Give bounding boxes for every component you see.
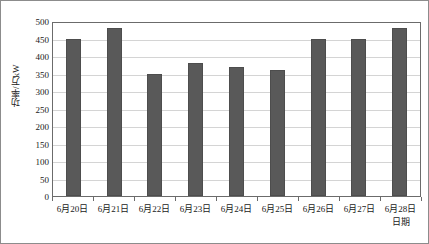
y-axis-tick-label: 450 xyxy=(21,35,49,44)
bar-slot xyxy=(94,23,135,196)
x-axis-tick-label: 6月23日 xyxy=(175,202,216,218)
y-axis-tick-label: 250 xyxy=(21,105,49,114)
y-axis-tick-label: 350 xyxy=(21,70,49,79)
y-axis-tick-labels: 500450400350300250200150100500 xyxy=(21,17,49,197)
y-axis-tick-label: 50 xyxy=(21,175,49,184)
bar xyxy=(392,28,407,196)
bar-slot xyxy=(135,23,176,196)
y-axis-tick-label: 200 xyxy=(21,123,49,132)
bar xyxy=(351,39,366,197)
plot-area xyxy=(52,22,421,197)
x-axis-tick xyxy=(257,197,258,201)
x-axis-tick-label: 6月28日 xyxy=(380,202,421,218)
bar xyxy=(188,63,203,196)
x-axis-ticks xyxy=(52,197,421,201)
bar-slot xyxy=(53,23,94,196)
bar xyxy=(66,39,81,197)
x-axis-title: 日期 xyxy=(380,218,421,227)
x-axis-tick xyxy=(216,197,217,201)
y-axis-tick-label: 400 xyxy=(21,53,49,62)
x-axis-tick xyxy=(93,197,94,201)
x-axis-tick xyxy=(298,197,299,201)
x-axis-tick-label: 6月20日 xyxy=(52,202,93,218)
x-axis-tick-label: 6月26日 xyxy=(298,202,339,218)
bar-slot xyxy=(216,23,257,196)
x-axis-tick xyxy=(421,197,422,201)
y-axis-tick-label: 100 xyxy=(21,158,49,167)
x-axis-tick-labels: 6月20日6月21日6月22日6月23日6月24日6月25日6月26日6月27日… xyxy=(52,202,421,218)
bar xyxy=(270,70,285,196)
x-axis-tick-label: 6月25日 xyxy=(257,202,298,218)
y-axis-tick-label: 300 xyxy=(21,88,49,97)
bar-slot xyxy=(257,23,298,196)
bar xyxy=(311,39,326,197)
x-axis-tick-label: 6月22日 xyxy=(134,202,175,218)
bar-series xyxy=(53,23,420,196)
x-axis-tick xyxy=(134,197,135,201)
y-axis-tick-label: 500 xyxy=(21,18,49,27)
bar xyxy=(107,28,122,196)
x-axis-tick xyxy=(339,197,340,201)
bar-slot xyxy=(338,23,379,196)
x-axis-tick xyxy=(380,197,381,201)
x-axis-tick xyxy=(52,197,53,201)
x-axis-tick-label: 6月27日 xyxy=(339,202,380,218)
y-axis-tick-label: 0 xyxy=(21,193,49,202)
x-axis-tick-label: 6月21日 xyxy=(93,202,134,218)
bar-slot xyxy=(175,23,216,196)
x-axis-tick xyxy=(175,197,176,201)
bar-slot xyxy=(379,23,420,196)
bar xyxy=(229,67,244,197)
x-axis-tick-label: 6月24日 xyxy=(216,202,257,218)
bar xyxy=(147,74,162,197)
y-axis-tick-label: 150 xyxy=(21,140,49,149)
bar-slot xyxy=(298,23,339,196)
bar-chart-figure: 功率/万kW 500450400350300250200150100500 6月… xyxy=(0,0,429,244)
